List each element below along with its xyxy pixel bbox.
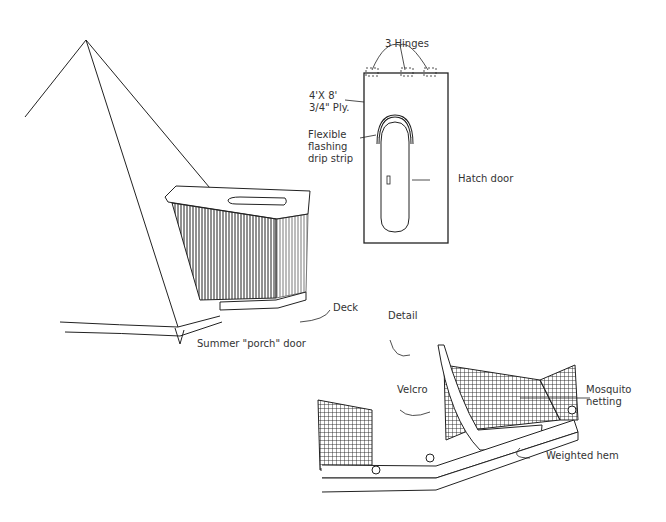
porch-top-slot xyxy=(228,197,286,205)
illustration-canvas xyxy=(0,0,666,522)
tent-left-edge xyxy=(25,40,86,117)
tent-right-edge xyxy=(86,40,230,212)
label-weighted-hem: Weighted hem xyxy=(546,450,619,462)
tent-base-left xyxy=(60,316,220,327)
detail-drawing xyxy=(300,310,590,492)
label-hatch-door: Hatch door xyxy=(458,173,513,185)
porch-box xyxy=(165,186,310,310)
label-porch-door: Summer "porch" door xyxy=(197,338,306,350)
label-deck: Deck xyxy=(333,302,358,314)
plywood-panel xyxy=(345,44,448,243)
porch-netting xyxy=(172,203,276,300)
label-mosquito-netting: Mosquito netting xyxy=(586,384,631,408)
porch-netting-side xyxy=(276,214,308,298)
tent-center-edge xyxy=(86,40,178,327)
tent-base-left2 xyxy=(65,322,222,336)
label-velcro: Velcro xyxy=(397,384,428,396)
detail-netting-left xyxy=(318,400,372,470)
label-detail: Detail xyxy=(388,310,417,322)
label-flashing: Flexible flashing drip strip xyxy=(308,129,353,165)
label-plywood-thickness: 3/4" Ply. xyxy=(309,102,349,114)
label-plywood-size: 4'X 8' xyxy=(309,90,337,102)
label-hinges: 3 Hinges xyxy=(385,38,429,50)
